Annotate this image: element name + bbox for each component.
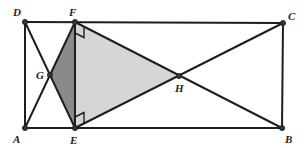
segment-dc (25, 22, 283, 23)
point-b (279, 125, 284, 130)
point-c (280, 20, 285, 25)
point-h (176, 73, 181, 78)
segment-cb (282, 23, 283, 128)
label-a: A (12, 133, 20, 145)
label-g: G (36, 69, 44, 81)
point-f (72, 19, 77, 24)
point-e (72, 125, 77, 130)
point-d (22, 19, 27, 24)
label-b: B (284, 133, 292, 145)
label-d: D (12, 6, 21, 18)
point-g (47, 72, 52, 77)
triangle-feh-light-region (75, 22, 179, 128)
point-a (22, 125, 27, 130)
triangle-gfe-dark-region (50, 22, 75, 128)
geometry-diagram: D F C G H A E B (0, 0, 307, 148)
label-e: E (69, 134, 77, 146)
label-f: F (68, 6, 77, 18)
label-h: H (174, 82, 184, 94)
label-c: C (288, 10, 296, 22)
